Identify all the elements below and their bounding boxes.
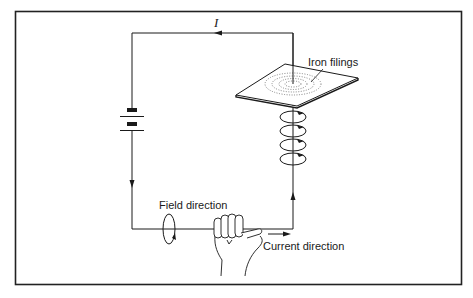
current-symbol-label: I xyxy=(213,15,219,30)
current-direction-label: Current direction xyxy=(263,240,344,252)
field-direction-label: Field direction xyxy=(159,199,227,211)
current-arrow-right-icon xyxy=(291,192,296,200)
diagram-canvas: I Iron filings Field d xyxy=(0,0,473,298)
current-arrow-top-icon xyxy=(214,31,222,36)
current-arrow-left-icon xyxy=(130,180,135,188)
iron-filings-label: Iron filings xyxy=(308,56,359,68)
card-plate xyxy=(236,64,358,108)
figure-frame xyxy=(16,12,462,285)
right-hand-icon xyxy=(214,214,262,276)
battery-icon xyxy=(120,108,144,131)
current-direction-arrow-icon xyxy=(283,232,291,237)
